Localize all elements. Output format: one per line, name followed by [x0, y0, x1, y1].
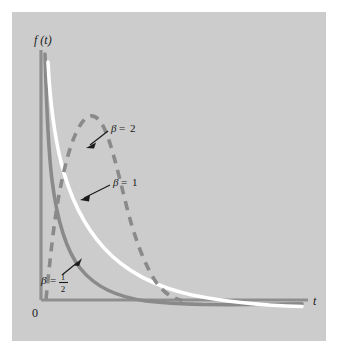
annotation-beta-half-numerator: 1 — [61, 272, 66, 282]
x-axis-label: t — [313, 294, 317, 308]
annotation-beta-1-value: 1 — [132, 176, 138, 188]
annotation-beta-1-symbol: β — [112, 176, 119, 188]
annotation-beta-1-equals: = — [121, 176, 127, 188]
annotation-beta-1: β = 1 — [80, 176, 138, 202]
annotation-beta-2-symbol: β — [110, 122, 117, 134]
annotation-beta-1-arrowhead — [80, 195, 90, 202]
annotation-beta-half-symbol: β — [40, 274, 47, 286]
annotation-beta-2-arrowhead — [86, 143, 96, 149]
annotation-beta-2-leader — [90, 131, 108, 145]
curve-beta-one — [48, 62, 302, 307]
weibull-density-plot: β = 2 β = 1 β = 1 2 — [12, 12, 326, 341]
annotation-beta-half: β = 1 2 — [40, 258, 82, 294]
y-axis-label: f (t) — [34, 33, 52, 47]
annotation-beta-2-value: 2 — [130, 122, 136, 134]
curve-beta-two — [46, 116, 182, 301]
axes-group — [41, 50, 308, 300]
origin-label: 0 — [32, 306, 38, 320]
figure-root: β = 2 β = 1 β = 1 2 — [0, 0, 340, 355]
annotation-beta-2-equals: = — [119, 122, 125, 134]
annotation-beta-half-equals: = — [50, 274, 56, 286]
annotation-beta-half-denominator: 2 — [61, 284, 66, 294]
curve-beta-one-half — [45, 54, 302, 305]
plot-panel: β = 2 β = 1 β = 1 2 — [12, 12, 326, 341]
